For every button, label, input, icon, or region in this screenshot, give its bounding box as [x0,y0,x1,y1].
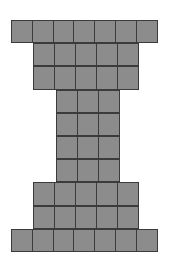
unit-square [77,113,99,136]
unit-square [77,159,99,182]
unit-square [53,229,75,252]
unit-square [54,206,76,229]
unit-square [11,20,33,43]
unit-square [117,206,139,229]
unit-square [94,20,116,43]
unit-square [11,229,33,252]
figure-canvas [0,0,184,268]
unit-square [56,136,78,159]
square-row [33,182,137,205]
unit-square [98,136,120,159]
unit-square [56,90,78,113]
unit-square [96,43,118,66]
unit-square [115,229,137,252]
unit-square [75,182,97,205]
unit-square [98,159,120,182]
unit-square [75,66,97,89]
square-row [56,90,118,113]
square-row [56,159,118,182]
unit-square [75,206,97,229]
unit-square [75,43,97,66]
unit-square [53,20,75,43]
unit-square [56,159,78,182]
unit-square [32,229,54,252]
unit-square [33,206,55,229]
unit-square [54,43,76,66]
unit-square [117,43,139,66]
square-row [33,43,137,66]
unit-square [33,43,55,66]
unit-square [33,182,55,205]
unit-square [98,113,120,136]
unit-square [117,182,139,205]
unit-square [54,66,76,89]
unit-square [115,20,137,43]
i-beam-shape [11,20,168,252]
unit-square [73,20,95,43]
unit-square [96,66,118,89]
square-row [33,66,137,89]
unit-square [77,90,99,113]
unit-square [33,66,55,89]
square-row [11,229,157,252]
square-row [56,136,118,159]
unit-square [32,20,54,43]
unit-square [77,136,99,159]
unit-square [54,182,76,205]
square-row [56,113,118,136]
unit-square [136,229,158,252]
unit-square [96,182,118,205]
unit-square [56,113,78,136]
unit-square [94,229,116,252]
unit-square [117,66,139,89]
unit-square [73,229,95,252]
unit-square [136,20,158,43]
unit-square [96,206,118,229]
square-row [11,20,157,43]
unit-square [98,90,120,113]
square-row [33,206,137,229]
